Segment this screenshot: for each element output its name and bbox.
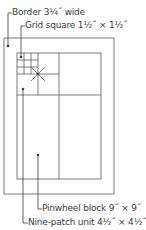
grid-leader-dot: [20, 56, 23, 59]
pinwheel-leader: [38, 155, 42, 209]
grid-square-label: Grid square 1½˝ × 1½˝: [25, 20, 127, 31]
border-label: Border 3¼˝ wide: [12, 7, 85, 18]
nine-patch-leader-dot: [22, 88, 25, 91]
border-leader-dot: [7, 45, 10, 48]
nine-patch-unit-label: Nine-patch unit 4½˝ × 4½˝: [28, 217, 146, 228]
pinwheel-leader-dot: [37, 154, 40, 157]
pinwheel-center-dot: [37, 73, 40, 76]
quilt-diagram: [0, 0, 146, 230]
nine-patch-leader: [23, 89, 28, 223]
pinwheel-block-label: Pinwheel block 9˝ × 9˝: [42, 203, 141, 214]
